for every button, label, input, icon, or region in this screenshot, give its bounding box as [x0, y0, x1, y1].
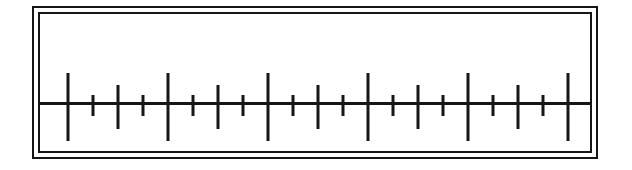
tick-mark-minor [242, 95, 245, 116]
tick-mark-major [467, 73, 470, 141]
tick-mark-major [367, 73, 370, 141]
tick-mark-medium [317, 85, 320, 129]
scale-plot-area [40, 14, 590, 151]
tick-mark-major [567, 73, 570, 141]
tick-mark-medium [117, 85, 120, 129]
tick-mark-medium [517, 85, 520, 129]
tick-mark-minor [442, 95, 445, 116]
inner-border-frame [38, 12, 592, 153]
tick-mark-medium [417, 85, 420, 129]
tick-mark-minor [392, 95, 395, 116]
tick-mark-minor [292, 95, 295, 116]
tick-mark-minor [342, 95, 345, 116]
tick-mark-minor [142, 95, 145, 116]
tick-mark-major [167, 73, 170, 141]
tick-mark-minor [92, 95, 95, 116]
tick-mark-medium [217, 85, 220, 129]
tick-mark-minor [192, 95, 195, 116]
figure-root [0, 0, 632, 170]
tick-mark-minor [542, 95, 545, 116]
axis-baseline [40, 102, 590, 105]
outer-border-frame [32, 6, 598, 159]
tick-mark-major [67, 73, 70, 141]
tick-mark-minor [492, 95, 495, 116]
tick-mark-major [267, 73, 270, 141]
